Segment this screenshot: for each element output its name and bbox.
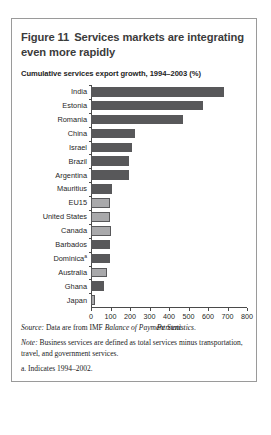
figure-page: Figure 11Services markets are integratin…	[0, 0, 271, 435]
bar	[91, 268, 107, 278]
footnote-a: a. Indicates 1994–2002.	[21, 364, 247, 374]
bar	[91, 101, 203, 111]
bar-category-label: Brazil	[21, 158, 91, 165]
bar-row: Barbados	[21, 238, 249, 252]
bar-category-label: United States	[21, 213, 91, 220]
bar-chart: IndiaEstoniaRomaniaChinaIsraelBrazilArge…	[21, 85, 249, 329]
bar-row: Dominicaa	[21, 252, 249, 266]
bar	[91, 184, 112, 194]
bar	[91, 240, 110, 250]
y-axis-tick	[89, 154, 92, 155]
bar	[91, 254, 110, 264]
note-label: Note:	[21, 338, 38, 347]
x-axis-tick-label: 300	[144, 312, 156, 321]
y-axis-tick	[89, 224, 92, 225]
bar	[91, 129, 135, 139]
y-axis-tick	[89, 168, 92, 169]
x-axis-tick-label: 200	[124, 312, 136, 321]
bar-category-label: Estonia	[21, 102, 91, 109]
bar-category-label: India	[21, 88, 91, 95]
bar-row: Australia	[21, 266, 249, 280]
x-axis-tick-label: 100	[105, 312, 117, 321]
y-axis-tick	[89, 279, 92, 280]
x-axis-tick	[247, 308, 248, 311]
y-axis-tick	[89, 210, 92, 211]
x-axis-tick-labels: 0100200300400500600700800	[91, 312, 247, 323]
y-axis-tick	[89, 85, 92, 86]
y-axis-tick	[89, 99, 92, 100]
bar	[91, 295, 95, 305]
x-axis-tick	[130, 308, 131, 311]
bar-category-label: Ghana	[21, 283, 91, 290]
x-axis-tick	[228, 308, 229, 311]
bar-cell	[91, 238, 249, 252]
bar-cell	[91, 252, 249, 266]
bar-row: Ghana	[21, 279, 249, 293]
bar-category-label: Argentina	[21, 172, 91, 179]
bar	[91, 281, 104, 291]
bar-cell	[91, 293, 249, 307]
bar-row: India	[21, 85, 249, 99]
source-text-a: Data are from IMF	[44, 323, 105, 332]
bar-row: Brazil	[21, 154, 249, 168]
bar-cell	[91, 127, 249, 141]
x-axis-tick-label: 0	[89, 312, 93, 321]
bar	[91, 198, 110, 208]
plot-area: IndiaEstoniaRomaniaChinaIsraelBrazilArge…	[21, 85, 249, 307]
bar-cell	[91, 168, 249, 182]
figure-notes: Source: Data are from IMF Balance of Pay…	[21, 323, 247, 374]
x-axis-tick-label: 700	[222, 312, 234, 321]
bar-row: Romania	[21, 113, 249, 127]
bar-category-label: Dominicaa	[21, 254, 91, 263]
y-axis-tick	[89, 113, 92, 114]
bar-row: Israel	[21, 141, 249, 155]
bar	[91, 212, 110, 222]
bar-category-label: EU15	[21, 199, 91, 206]
figure-number: Figure 11	[21, 31, 69, 43]
bar-row: Mauritius	[21, 182, 249, 196]
x-axis-tick	[150, 308, 151, 311]
bar-row: Argentina	[21, 168, 249, 182]
y-axis-tick	[89, 266, 92, 267]
chart-subtitle: Cumulative services export growth, 1994–…	[21, 69, 247, 78]
bar	[91, 143, 132, 153]
bar-category-label: Canada	[21, 227, 91, 234]
bar-row: EU15	[21, 196, 249, 210]
x-axis-tick-label: 800	[241, 312, 253, 321]
source-text-b: .	[194, 323, 196, 332]
bar	[91, 170, 129, 180]
bar	[91, 115, 183, 125]
bar	[91, 87, 224, 97]
y-axis-tick	[89, 293, 92, 294]
bar-cell	[91, 113, 249, 127]
x-axis-tick	[169, 308, 170, 311]
y-axis-tick	[89, 196, 92, 197]
bar-category-label: Barbados	[21, 241, 91, 248]
bar-cell	[91, 210, 249, 224]
figure-frame: Figure 11Services markets are integratin…	[11, 18, 257, 382]
note-text: Business services are defined as total s…	[21, 338, 243, 357]
bar-cell	[91, 196, 249, 210]
bar-category-label: Romania	[21, 116, 91, 123]
bar-category-label: Israel	[21, 144, 91, 151]
x-axis-tick-label: 400	[163, 312, 175, 321]
y-axis-tick	[89, 182, 92, 183]
bar-cell	[91, 279, 249, 293]
bar-category-label: Japan	[21, 297, 91, 304]
y-axis-tick	[89, 238, 92, 239]
bar-row: Estonia	[21, 99, 249, 113]
x-axis-tick-label: 500	[183, 312, 195, 321]
bar-cell	[91, 266, 249, 280]
bar	[91, 156, 129, 166]
x-axis-tick	[111, 308, 112, 311]
bar-category-label: Australia	[21, 269, 91, 276]
category-footnote-marker: a	[84, 253, 87, 259]
source-note: Source: Data are from IMF Balance of Pay…	[21, 323, 247, 333]
bar-cell	[91, 154, 249, 168]
source-publication: Balance of Payment Statistics	[105, 323, 194, 332]
definition-note: Note: Business services are defined as t…	[21, 338, 247, 358]
bar-row: United States	[21, 210, 249, 224]
bar-row: Japan	[21, 293, 249, 307]
y-axis-tick	[89, 127, 92, 128]
bar-cell	[91, 85, 249, 99]
